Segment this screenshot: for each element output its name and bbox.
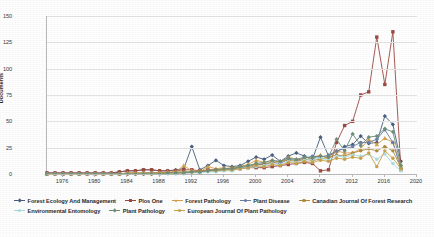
triangle-marker-icon [172, 197, 183, 204]
square-marker-icon [125, 197, 136, 204]
x-tick-mark [384, 175, 385, 177]
legend-item[interactable]: Plos One [125, 196, 163, 205]
legend-item-label: Forest Pathology [185, 198, 231, 204]
legend-item[interactable]: Plant Disease [240, 196, 290, 205]
x-tick-mark [319, 175, 320, 177]
circle-marker-icon [174, 207, 185, 214]
x-tick-mark [191, 175, 192, 177]
x-tick-mark [352, 175, 353, 177]
x-tick-label: 1992 [185, 178, 197, 184]
x-tick-label: 1976 [56, 178, 68, 184]
legend-item-label: Forest Ecology And Management [28, 198, 116, 204]
series-7 [45, 127, 403, 177]
diamond-marker-icon [14, 197, 25, 204]
x-tick-label: 2020 [410, 178, 422, 184]
legend-item-label: Plant Pathology [123, 208, 165, 214]
y-tick-label: 100 [3, 66, 12, 72]
legend-item-label: Canadian Journal Of Forest Research [312, 198, 412, 204]
legend-item[interactable]: Forest Pathology [172, 196, 231, 205]
y-tick-label: 50 [6, 118, 12, 124]
y-gridline [47, 69, 417, 70]
y-gridline [47, 16, 417, 17]
circle-marker-icon [299, 197, 310, 204]
y-gridline [47, 121, 417, 122]
legend-item-label: European Journal Of Plant Pathology [187, 208, 286, 214]
chart-legend: Forest Ecology And ManagementPlos OneFor… [14, 196, 424, 216]
legend-item[interactable]: Forest Ecology And Management [14, 196, 116, 205]
x-tick-label: 1996 [217, 178, 229, 184]
x-tick-label: 2008 [313, 178, 325, 184]
x-tick-mark [223, 175, 224, 177]
x-tick-mark [287, 175, 288, 177]
x-tick-label: 2004 [281, 178, 293, 184]
x-tick-mark [255, 175, 256, 177]
legend-item[interactable]: European Journal Of Plant Pathology [174, 206, 287, 215]
legend-item-label: Plant Disease [253, 198, 289, 204]
y-tick-label: 75 [6, 92, 12, 98]
documents-per-year-line-chart: Documents 025507510012515019761980198419… [0, 0, 434, 237]
x-tick-label: 2012 [345, 178, 357, 184]
legend-item[interactable]: Plant Pathology [109, 206, 165, 215]
y-tick-label: 125 [3, 39, 12, 45]
circle-marker-icon [240, 197, 251, 204]
x-tick-label: 1984 [120, 178, 132, 184]
diamond-marker-icon [109, 207, 120, 214]
plot-area [46, 16, 417, 175]
x-tick-label: 1980 [88, 178, 100, 184]
legend-item[interactable]: Environmental Entomology [14, 206, 100, 215]
y-tick-label: 150 [3, 13, 12, 19]
y-tick-label: 0 [9, 171, 12, 177]
y-gridline [47, 42, 417, 43]
y-gridline [47, 174, 417, 175]
y-gridline [47, 95, 417, 96]
y-tick-label: 25 [6, 145, 12, 151]
legend-item-label: Environmental Entomology [28, 208, 101, 214]
x-tick-label: 1988 [152, 178, 164, 184]
y-axis-title: Documents [0, 73, 4, 103]
legend-item-label: Plos One [138, 198, 162, 204]
x-tick-mark [416, 175, 417, 177]
x-tick-label: 2016 [378, 178, 390, 184]
x-tick-label: 2000 [249, 178, 261, 184]
legend-item[interactable]: Canadian Journal Of Forest Research [299, 196, 413, 205]
y-gridline [47, 148, 417, 149]
circle-marker-icon [14, 207, 25, 214]
